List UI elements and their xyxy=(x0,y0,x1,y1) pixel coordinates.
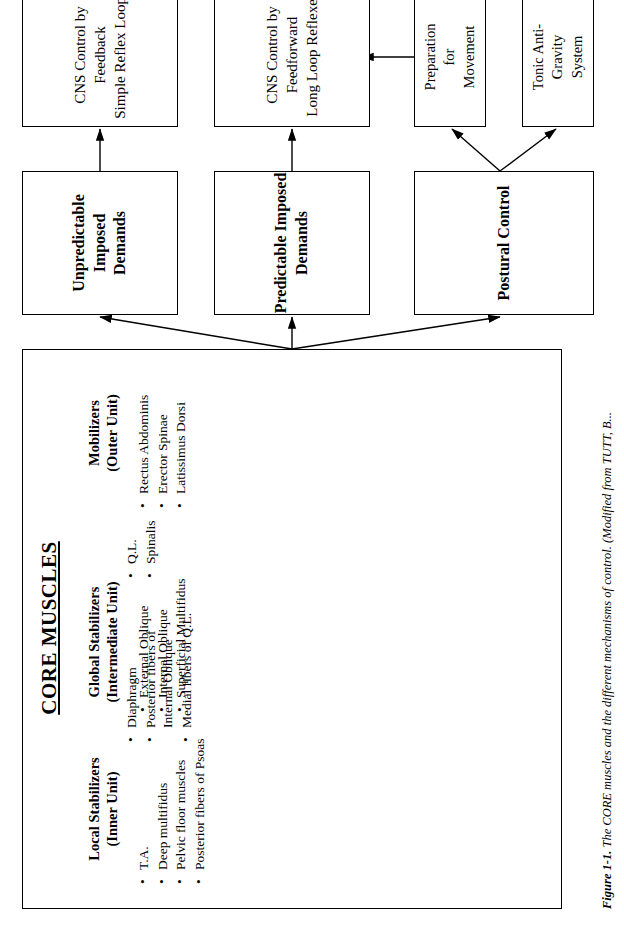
list-item: •Superficial Multifidus xyxy=(172,572,190,712)
list-item-label: Rectus Abdominis xyxy=(136,395,151,494)
unit-heading-line1: Global Stabilizers xyxy=(85,572,103,712)
list-item-label: Latissimus Dorsi xyxy=(173,402,188,494)
node-predictable-imposed-demands[interactable]: Predictable Imposed Demands xyxy=(214,171,370,315)
node-label-line2: for xyxy=(440,24,460,91)
list-item: •Deep multifidus xyxy=(154,734,172,884)
list-item-label: Spinalis xyxy=(143,520,158,564)
node-label: Preparation for Movement xyxy=(421,24,480,91)
list-item: •Internal Oblique xyxy=(154,572,172,712)
unit-global-stabilizers: Global Stabilizers (Intermediate Unit) •… xyxy=(85,572,191,712)
node-label-line3: System xyxy=(568,24,588,90)
bullet-icon: • xyxy=(171,879,189,884)
node-label-line1: CNS Control by Feedback xyxy=(70,0,111,126)
node-label-line2: Gravity xyxy=(548,24,568,90)
node-preparation-for-movement[interactable]: Preparation for Movement xyxy=(414,0,486,127)
bullet-icon: • xyxy=(134,879,152,884)
bullet-icon: • xyxy=(153,879,171,884)
node-label-line1: Tonic Anti- xyxy=(529,24,549,90)
list-item-label: Posterior fibers of Psoas xyxy=(192,738,207,870)
list-item: •Pelvic floor muscles xyxy=(172,734,190,884)
unit-global-stabilizers-heading: Global Stabilizers (Intermediate Unit) xyxy=(85,572,121,712)
node-label-line1: CNS Control by Feedforward xyxy=(262,0,303,126)
bullet-icon: • xyxy=(141,737,159,742)
node-label-line2: Simple Reflex Loops xyxy=(110,0,130,126)
list-item: •External Oblique xyxy=(135,572,153,712)
bullet-icon: • xyxy=(134,503,152,508)
unit-local-stabilizers: Local Stabilizers (Inner Unit) •T.A. •De… xyxy=(85,734,209,884)
list-item: •Posterior fibers of Psoas xyxy=(191,734,209,884)
node-cns-control-feedback[interactable]: CNS Control by Feedback Simple Reflex Lo… xyxy=(22,0,178,127)
unit-mobilizers-heading: Mobilizers (Outer Unit) xyxy=(85,358,121,508)
node-label-line2: Demands xyxy=(292,173,313,314)
node-cns-control-feedforward[interactable]: CNS Control by Feedforward Long Loop Ref… xyxy=(214,0,370,127)
list-item-label: T.A. xyxy=(136,846,151,870)
bullet-icon: • xyxy=(141,573,159,578)
diagram-canvas: CORE MUSCLES Local Stabilizers (Inner Un… xyxy=(0,0,624,929)
node-label-line3: Movement xyxy=(460,24,480,91)
node-label-line1: Unpredictable Imposed xyxy=(69,172,111,314)
bullet-icon: • xyxy=(134,707,152,712)
unit-heading-line1: Local Stabilizers xyxy=(85,734,103,884)
figure-number: Figure 1-1. xyxy=(600,851,614,909)
list-item-label: Q.L. xyxy=(124,539,139,564)
list-item-label: Superficial Multifidus xyxy=(173,578,188,698)
node-unpredictable-imposed-demands[interactable]: Unpredictable Imposed Demands xyxy=(22,171,178,315)
unit-local-stabilizers-heading: Local Stabilizers (Inner Unit) xyxy=(85,734,121,884)
unit-heading-line2: (Outer Unit) xyxy=(103,358,121,508)
bullet-icon: • xyxy=(153,503,171,508)
unit-local-stabilizers-list-a: •T.A. •Deep multifidus •Pelvic floor mus… xyxy=(135,734,208,884)
node-label: CNS Control by Feedforward Long Loop Ref… xyxy=(262,0,323,126)
list-item: •Rectus Abdominis xyxy=(135,358,153,508)
node-label-line1: Preparation xyxy=(421,24,441,91)
list-item-label: Erector Spinae xyxy=(155,414,170,494)
unit-global-stabilizers-list-a: •External Oblique •Internal Oblique •Sup… xyxy=(135,572,190,712)
node-label: CNS Control by Feedback Simple Reflex Lo… xyxy=(70,0,131,126)
node-label: Unpredictable Imposed Demands xyxy=(69,172,131,314)
bullet-icon: • xyxy=(171,707,189,712)
node-label: Predictable Imposed Demands xyxy=(271,173,313,314)
unit-mobilizers: Mobilizers (Outer Unit) •Rectus Abdomini… xyxy=(85,358,191,508)
list-item: •T.A. xyxy=(135,734,153,884)
node-tonic-anti-gravity-system[interactable]: Tonic Anti- Gravity System xyxy=(522,0,594,127)
list-item-label: Pelvic floor muscles xyxy=(173,760,188,870)
unit-heading-line1: Mobilizers xyxy=(85,358,103,508)
node-postural-control[interactable]: Postural Control xyxy=(414,171,594,315)
list-item-label: Internal Oblique xyxy=(155,609,170,698)
unit-mobilizers-list: •Rectus Abdominis •Erector Spinae •Latis… xyxy=(135,358,190,508)
list-item: •Erector Spinae xyxy=(154,358,172,508)
list-item: •Latissimus Dorsi xyxy=(172,358,190,508)
unit-heading-line2: (Inner Unit) xyxy=(103,734,121,884)
node-label-line2: Long Loop Reflexes xyxy=(302,0,322,126)
bullet-icon: • xyxy=(122,737,140,742)
list-item-label: Deep multifidus xyxy=(155,783,170,870)
bullet-icon: • xyxy=(190,879,208,884)
node-label-line1: Predictable Imposed xyxy=(271,173,292,314)
bullet-icon: • xyxy=(171,503,189,508)
bullet-icon: • xyxy=(153,707,171,712)
figure-caption: Figure 1-1. The CORE muscles and the dif… xyxy=(600,9,615,909)
core-muscles-title: CORE MUSCLES xyxy=(37,348,62,908)
core-muscles-panel: CORE MUSCLES Local Stabilizers (Inner Un… xyxy=(22,349,562,909)
node-label-line2: Demands xyxy=(110,172,131,314)
bullet-icon: • xyxy=(177,737,195,742)
node-label: Postural Control xyxy=(494,186,515,301)
core-muscles-title-text: CORE MUSCLES xyxy=(37,541,61,714)
list-item-label: External Oblique xyxy=(136,605,151,698)
unit-heading-line2: (Intermediate Unit) xyxy=(103,572,121,712)
node-label: Tonic Anti- Gravity System xyxy=(529,24,588,90)
figure-caption-text: The CORE muscles and the different mecha… xyxy=(600,412,614,848)
bullet-icon: • xyxy=(122,573,140,578)
